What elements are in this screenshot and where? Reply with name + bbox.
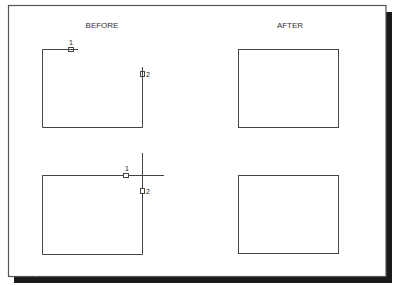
diagram-frame [9, 6, 387, 277]
after-header: AFTER [277, 21, 303, 30]
diagram-canvas: BEFORE AFTER 1 2 1 2 [0, 0, 395, 286]
pick-label-1: 1 [69, 39, 73, 46]
pick-box-1 [124, 174, 129, 178]
pick-label-1: 1 [125, 165, 129, 172]
pick-label-2: 2 [146, 71, 150, 78]
pick-box-2 [141, 189, 145, 194]
pick-label-2: 2 [146, 188, 150, 195]
artifact-dot [36, 276, 37, 277]
before-header: BEFORE [86, 21, 119, 30]
